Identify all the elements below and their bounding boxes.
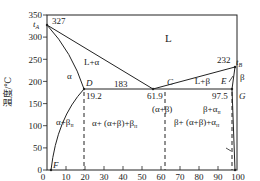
x-tick-label: 20 <box>81 172 91 181</box>
label-19-2: 19.2 <box>86 91 102 101</box>
label-tA: tA <box>33 19 40 30</box>
axes <box>47 15 237 170</box>
x-tick-label: 100 <box>231 172 245 181</box>
x-axis-ticks <box>66 166 218 170</box>
region-alpha: α <box>67 71 72 81</box>
x-tick-label: 30 <box>100 172 110 181</box>
x-axis-tick-labels: 0 10 20 30 40 50 60 70 80 90 100 <box>41 172 246 181</box>
x-tick-label: 50 <box>138 172 148 181</box>
region-eutectic: (α+β) <box>152 104 172 114</box>
y-tick-label: 200 <box>29 77 43 87</box>
region-L-alpha: L+α <box>84 57 100 67</box>
label-61-9: 61.9 <box>147 91 163 101</box>
phase-lines <box>47 25 235 170</box>
region-beta: β <box>240 72 245 82</box>
x-tick-label: 0 <box>41 172 46 181</box>
liquidus-left <box>47 25 153 89</box>
region-hypereutectic: β+ (α+β)+αII <box>174 117 220 128</box>
y-axis-tick-labels: 0 50 100 150 200 250 300 350 <box>29 10 43 175</box>
region-alpha-betaII: α+βII <box>56 117 74 128</box>
label-G: G <box>239 91 246 101</box>
y-tick-label: 50 <box>33 143 43 153</box>
label-232: 232 <box>217 55 231 65</box>
x-tick-label: 40 <box>119 172 129 181</box>
label-tB: tB <box>236 57 243 68</box>
x-tick-label: 90 <box>214 172 224 181</box>
x-tick-label: 70 <box>176 172 186 181</box>
solidus-alpha <box>47 25 84 89</box>
x-tick-label: 60 <box>157 172 167 181</box>
region-hypoeutectic: α+ (α+β)+βII <box>92 118 138 129</box>
key-points <box>46 24 236 171</box>
y-axis-ticks <box>43 15 47 170</box>
label-D: D <box>85 78 93 88</box>
region-L: L <box>165 32 172 44</box>
label-C: C <box>167 77 174 87</box>
phase-diagram-figure: 0 50 100 150 200 250 300 350 0 10 20 30 … <box>0 0 260 181</box>
region-beta-alphaII: β+αII <box>203 104 221 115</box>
y-tick-label: 250 <box>29 55 43 65</box>
plot-frame <box>47 15 237 170</box>
label-183: 183 <box>114 79 128 89</box>
label-97-5: 97.5 <box>212 91 228 101</box>
y-tick-label: 300 <box>29 32 43 42</box>
phase-diagram-chart: 0 50 100 150 200 250 300 350 0 10 20 30 … <box>0 0 260 181</box>
y-tick-label: 150 <box>29 99 43 109</box>
label-F: F <box>52 160 59 170</box>
x-tick-label: 80 <box>195 172 205 181</box>
solvus-alpha <box>51 89 84 170</box>
label-327: 327 <box>52 16 66 26</box>
x-tick-label: 10 <box>62 172 72 181</box>
y-tick-label: 100 <box>29 121 43 131</box>
region-L-beta: L+β <box>195 76 211 86</box>
y-axis-label: 温度/℃ <box>2 77 13 108</box>
label-E: E <box>220 76 227 86</box>
solidus-beta <box>232 67 235 89</box>
